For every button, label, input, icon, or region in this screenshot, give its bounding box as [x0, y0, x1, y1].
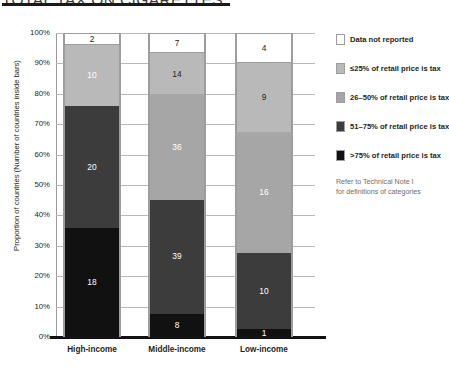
y-tick-label: 60%	[20, 150, 50, 159]
legend-note: Refer to Technical Note I for definition…	[336, 177, 421, 197]
bar-segment[interactable]: 36	[149, 94, 205, 199]
bar-segment-value: 8	[175, 321, 180, 329]
y-tick-label: 20%	[20, 271, 50, 280]
bar-segment-value: 1	[262, 329, 267, 337]
bar-segment-value: 36	[172, 143, 181, 151]
bar-edge-left	[235, 33, 237, 337]
bar-segment-value: 9	[262, 93, 267, 101]
bar-segment-value: 10	[87, 71, 96, 79]
title-block: TOTAL TAX ON CIGARETTES	[0, 0, 449, 13]
bar-segment-value: 20	[87, 163, 96, 171]
y-tick-label: 80%	[20, 89, 50, 98]
y-tick-label: 10%	[20, 302, 50, 311]
bar-segment-value: 7	[175, 39, 180, 47]
bar-segment[interactable]: 39	[149, 200, 205, 314]
bar-segment[interactable]: 18	[64, 228, 120, 337]
legend-item[interactable]: 51–75% of retail price is tax	[336, 121, 449, 132]
legend-label: 51–75% of retail price is tax	[350, 122, 449, 131]
bar-edge-left	[148, 33, 150, 337]
bar-segment[interactable]: 2	[64, 33, 120, 45]
bar-middle-income[interactable]: 71436398	[149, 33, 205, 337]
bar-segment[interactable]: 7	[149, 33, 205, 53]
title-rule	[2, 3, 230, 6]
bar-edge-right	[119, 33, 121, 337]
y-tick-label: 50%	[20, 180, 50, 189]
bar-segment[interactable]: 9	[236, 63, 292, 131]
legend-swatch	[336, 150, 345, 161]
y-tick-label: 90%	[20, 58, 50, 67]
legend-item[interactable]: 26–50% of retail price is tax	[336, 92, 449, 103]
bar-segment[interactable]: 1	[236, 329, 292, 337]
legend-label: Data not reported	[350, 35, 413, 44]
bar-segment[interactable]: 10	[236, 253, 292, 329]
bar-high-income[interactable]: 2102018	[64, 33, 120, 337]
bar-edge-right	[204, 33, 206, 337]
legend-note-line-2: for definitions of categories	[336, 187, 421, 197]
bar-segment-value: 10	[259, 287, 268, 295]
bar-segment-value: 4	[262, 44, 267, 52]
legend-item[interactable]: Data not reported	[336, 34, 413, 45]
legend-item[interactable]: ≤25% of retail price is tax	[336, 63, 441, 74]
legend-swatch	[336, 63, 345, 74]
legend-label: ≤25% of retail price is tax	[350, 64, 441, 73]
plot-area: 2102018714363984916101	[56, 33, 315, 337]
bar-segment[interactable]: 4	[236, 33, 292, 63]
legend-label: 26–50% of retail price is tax	[350, 93, 449, 102]
bar-edge-left	[63, 33, 65, 337]
bar-edge-right	[291, 33, 293, 337]
legend-swatch	[336, 92, 345, 103]
legend-swatch	[336, 121, 345, 132]
legend-note-line-1: Refer to Technical Note I	[336, 177, 421, 187]
category-label-low-income: Low-income	[219, 345, 309, 354]
y-tick-label: 30%	[20, 241, 50, 250]
bar-segment-value: 18	[87, 278, 96, 286]
bar-segment[interactable]: 14	[149, 53, 205, 94]
bar-segment-value: 39	[172, 252, 181, 260]
bar-segment-value: 14	[172, 70, 181, 78]
legend-item[interactable]: >75% of retail price is tax	[336, 150, 441, 161]
category-label-high-income: High-income	[47, 345, 137, 354]
y-tick-label: 0%	[20, 332, 50, 341]
bar-segment[interactable]: 20	[64, 106, 120, 228]
bar-segment-value: 16	[259, 188, 268, 196]
bar-segment[interactable]: 16	[236, 132, 292, 254]
bar-segment-value: 2	[90, 35, 95, 43]
y-tick-label: 40%	[20, 210, 50, 219]
y-tick-label: 100%	[20, 28, 50, 37]
bar-segment[interactable]: 10	[64, 45, 120, 106]
bar-segment[interactable]: 8	[149, 314, 205, 337]
bar-low-income[interactable]: 4916101	[236, 33, 292, 337]
y-tick-label: 70%	[20, 119, 50, 128]
category-label-middle-income: Middle-income	[132, 345, 222, 354]
legend-label: >75% of retail price is tax	[350, 151, 441, 160]
legend-swatch	[336, 34, 345, 45]
